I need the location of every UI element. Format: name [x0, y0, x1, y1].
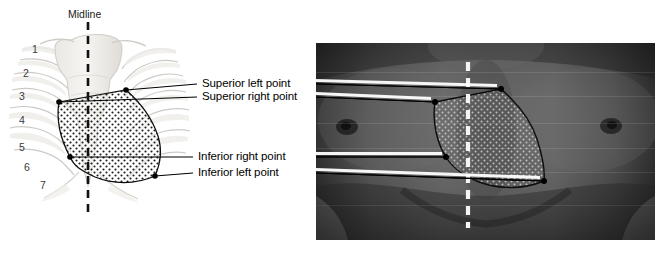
midline-label: Midline [68, 8, 101, 20]
rib-number-4: 4 [19, 114, 25, 126]
leader-inferior-left-drawing [155, 173, 193, 176]
rib-number-1: 1 [32, 43, 38, 55]
label-superior-left-point: Superior left point [202, 77, 290, 89]
rib-number-3: 3 [19, 90, 25, 102]
rib-number-6: 6 [24, 161, 30, 173]
label-superior-right-point: Superior right point [202, 90, 297, 102]
rib-number-5: 5 [19, 141, 25, 153]
rib-number-2: 2 [23, 67, 29, 79]
anatomy-figure: 1 2 3 4 5 6 7 [0, 0, 666, 254]
left-panel-drawing: 1 2 3 4 5 6 7 [0, 0, 666, 254]
label-inferior-right-point: Inferior right point [198, 150, 286, 162]
label-inferior-left-point: Inferior left point [198, 166, 279, 178]
rib-number-7: 7 [40, 179, 46, 191]
